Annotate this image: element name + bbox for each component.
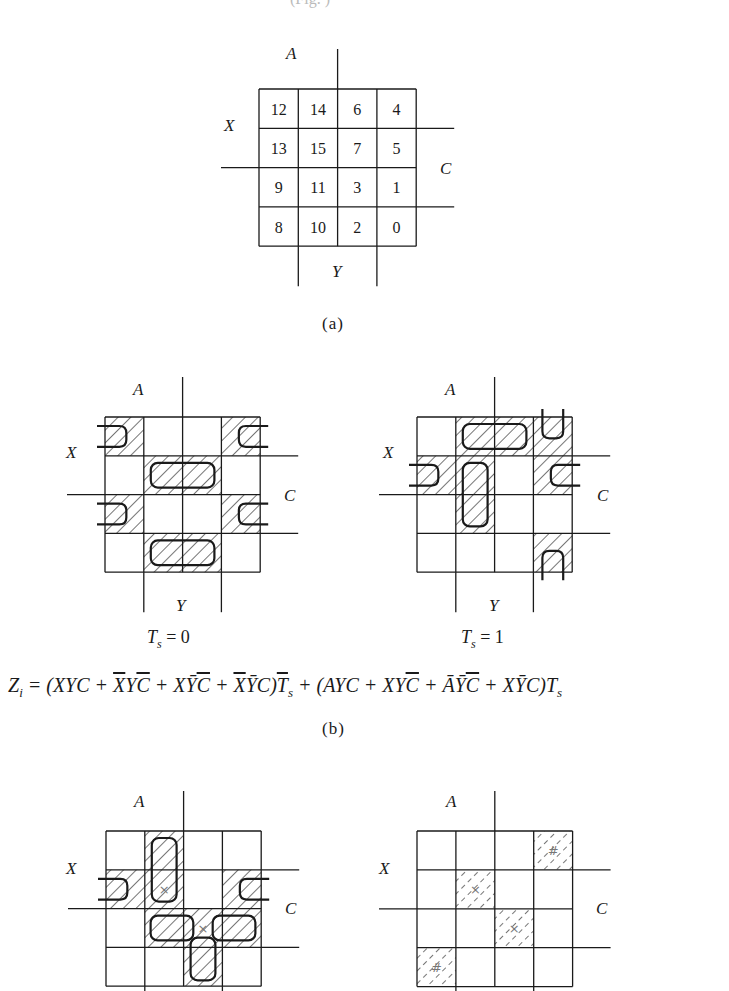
hatched-cell	[183, 456, 222, 495]
ts-symbol: T	[461, 627, 471, 647]
ts-label-1: Ts = 1	[461, 627, 504, 652]
hatched-cell	[495, 417, 534, 456]
map-c-left-label-A: A	[134, 792, 144, 812]
hatched-cell	[106, 870, 145, 909]
map-c-right-label-X: X	[379, 859, 389, 879]
map-a-label-X: X	[224, 116, 234, 136]
hatched-cell	[417, 456, 456, 495]
ts-value: = 1	[476, 627, 504, 647]
hatched-cell	[456, 417, 495, 456]
map-c-right-label-A: A	[446, 792, 456, 812]
ts-symbol: T	[147, 627, 157, 647]
map-b-left-label-A: A	[133, 380, 143, 400]
cell-minterm-number: 2	[353, 219, 361, 236]
karnaugh-map-figure: 1214641315759113181020×××##×	[0, 0, 729, 991]
cell-minterm-number: 6	[353, 101, 361, 118]
hatched-cell	[533, 456, 572, 495]
map-b-left-label-C: C	[284, 486, 295, 506]
map-a-label-C: C	[440, 159, 451, 179]
hatched-cell	[183, 533, 222, 572]
cell-minterm-number: 4	[393, 101, 401, 118]
map-a-label-Y: Y	[332, 262, 341, 282]
cell-minterm-number: 12	[271, 101, 287, 118]
cell-minterm-number: 0	[393, 219, 401, 236]
map-b-right-label-A: A	[445, 380, 455, 400]
hatched-cell	[222, 870, 261, 909]
dont-care-hash-mark: #	[548, 843, 559, 858]
equation-body: = (XYC + XYC + XȲC + XȲC)Ts + (AYC + XYC…	[28, 674, 562, 696]
map-b-right-label-Y: Y	[489, 596, 498, 616]
hatched-cell	[144, 533, 183, 572]
hatched-cell	[533, 533, 572, 572]
cross-mark: ×	[470, 882, 481, 897]
ts-label-0: Ts = 0	[147, 627, 190, 652]
dont-care-hash-mark: #	[431, 960, 442, 975]
cell-minterm-number: 7	[353, 140, 361, 157]
equation-lhs-subscript: i	[19, 685, 23, 700]
map-b-left-label-X: X	[66, 443, 76, 463]
hatched-cell	[456, 495, 495, 534]
map-c-right-label-C: C	[596, 899, 607, 919]
ts-value: = 0	[162, 627, 190, 647]
map-a-label-A: A	[286, 44, 296, 64]
cell-minterm-number: 1	[393, 179, 401, 196]
map-b-left-label-Y: Y	[176, 596, 185, 616]
hatched-cell	[145, 831, 184, 870]
caption-b: (b)	[322, 719, 345, 739]
cell-minterm-number: 3	[353, 179, 361, 196]
cross-mark: ×	[509, 921, 520, 936]
hatched-cell	[221, 495, 260, 534]
cell-minterm-number: 8	[275, 219, 283, 236]
cell-minterm-number: 15	[310, 140, 326, 157]
hatched-cell	[144, 456, 183, 495]
map-c-left-label-X: X	[66, 859, 76, 879]
map-b-right-label-C: C	[597, 486, 608, 506]
cell-minterm-number: 10	[310, 219, 326, 236]
map-b-right-label-X: X	[383, 443, 393, 463]
hatched-cell	[533, 417, 572, 456]
hatched-cell	[456, 456, 495, 495]
cell-minterm-number: 11	[310, 179, 325, 196]
cross-mark: ×	[159, 882, 170, 897]
caption-a: (a)	[322, 314, 344, 334]
cell-minterm-number: 5	[393, 140, 401, 157]
hatched-cell	[105, 495, 144, 534]
equation-lhs: Z	[8, 674, 19, 696]
hatched-cell	[105, 417, 144, 456]
output-equation: Zi = (XYC + XYC + XȲC + XȲC)Ts + (AYC + …	[8, 674, 562, 701]
map-c-left-label-C: C	[285, 899, 296, 919]
hatched-cell	[221, 417, 260, 456]
cell-minterm-number: 13	[271, 140, 287, 157]
cross-mark: ×	[198, 921, 209, 936]
cell-minterm-number: 9	[275, 179, 283, 196]
cell-minterm-number: 14	[310, 101, 326, 118]
